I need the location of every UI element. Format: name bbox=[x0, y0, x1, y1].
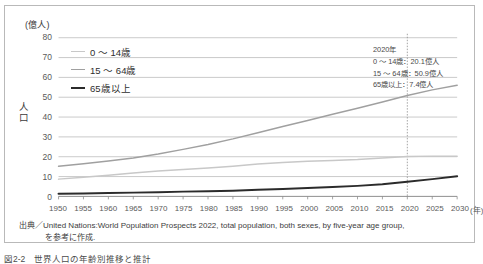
series-line-2 bbox=[59, 176, 458, 193]
annotation-line-0: 0 〜 14歳：20.1億人 bbox=[373, 56, 443, 68]
legend-swatch-icon-1 bbox=[71, 69, 85, 70]
legend-swatch-icon-2 bbox=[71, 87, 85, 89]
annotation-line-2: 65歳以上：7.4億人 bbox=[373, 79, 443, 91]
annotation-year: 2020年 bbox=[373, 44, 443, 56]
legend-label-1: 15 〜 64歳 bbox=[90, 63, 136, 77]
figure-caption: 図2-2 世界人口の年齢別推移と推計 bbox=[4, 252, 151, 264]
source-line-2: を参考に作成. bbox=[19, 232, 469, 244]
annotation-line-1: 15 〜 64歳：50.9億人 bbox=[373, 68, 443, 80]
annotation-2020-values: 2020年 0 〜 14歳：20.1億人 15 〜 64歳：50.9億人 65歳… bbox=[373, 44, 443, 91]
legend-label-2: 65歳以上 bbox=[90, 81, 131, 95]
chart-legend: 0 〜 14歳15 〜 64歳65歳以上 bbox=[71, 44, 136, 98]
legend-item-2: 65歳以上 bbox=[71, 80, 136, 95]
data-series-group bbox=[59, 85, 458, 193]
legend-label-0: 0 〜 14歳 bbox=[90, 45, 131, 59]
legend-item-1: 15 〜 64歳 bbox=[71, 62, 136, 77]
source-note: 出典／United Nations:World Population Prosp… bbox=[19, 220, 469, 244]
line-chart-plot bbox=[5, 6, 474, 242]
legend-swatch-icon-0 bbox=[71, 51, 85, 52]
figure-frame: (億人) 人口 01020304050607080 19501955196019… bbox=[4, 5, 475, 243]
legend-item-0: 0 〜 14歳 bbox=[71, 44, 136, 59]
source-line-1: 出典／United Nations:World Population Prosp… bbox=[19, 220, 469, 232]
